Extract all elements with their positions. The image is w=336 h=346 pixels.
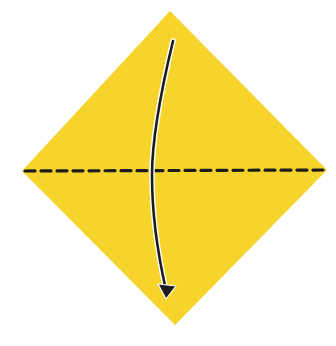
paper-square xyxy=(22,11,327,325)
origami-diagram: fold top corner down to bottom corner xyxy=(0,0,336,346)
diagram-svg xyxy=(0,0,336,346)
